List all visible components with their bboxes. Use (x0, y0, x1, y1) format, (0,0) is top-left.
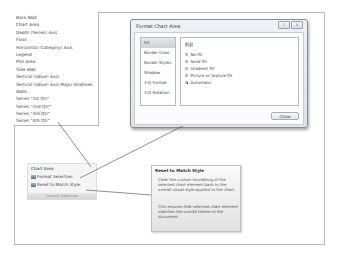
close-button[interactable]: Close (271, 112, 299, 120)
help-button[interactable]: ? (278, 21, 290, 29)
nav-item-border-color[interactable]: Border Color (141, 48, 175, 58)
tooltip-paragraph-1: Clear the custom formatting of the selec… (158, 177, 238, 192)
automatic-fill-option[interactable]: Automatic (185, 80, 211, 85)
list-item[interactable]: Series "1st Qtr" (16, 95, 98, 102)
radio-selected-icon[interactable] (185, 81, 188, 84)
tooltip-paragraph-2: This ensures that selected chart element… (158, 204, 238, 219)
selection-dropdown[interactable]: Chart Area (31, 166, 53, 171)
list-item[interactable]: Series "4th Qtr" (16, 117, 98, 124)
list-item[interactable]: Back Wall (16, 14, 98, 21)
format-selection-button[interactable]: Format Selection (31, 174, 72, 179)
format-chart-area-dialog: Format Chart Area ? X Fill Border Color … (130, 19, 308, 128)
no-fill-option[interactable]: No fill (185, 52, 202, 57)
list-item[interactable]: Plot Area (16, 58, 98, 65)
list-item[interactable]: Legend (16, 51, 98, 58)
list-item[interactable]: Vertical (Value) Axis (16, 73, 98, 80)
nav-item-border-styles[interactable]: Border Styles (141, 58, 175, 68)
dialog-body: Fill Border Color Border Styles Shadow 3… (134, 32, 304, 125)
radio-icon[interactable] (185, 60, 188, 63)
list-item[interactable]: Floor (16, 36, 98, 43)
dialog-title: Format Chart Area (136, 24, 180, 29)
list-item[interactable]: Series "3rd Qtr" (16, 110, 98, 117)
radio-icon[interactable] (185, 53, 188, 56)
nav-item-fill[interactable]: Fill (141, 38, 175, 48)
list-item[interactable]: Series "2nd Qtr" (16, 103, 98, 110)
pane-heading: Fill (185, 41, 193, 48)
chart-elements-list[interactable]: Back Wall Chart Area Depth (Series) Axis… (14, 12, 99, 126)
category-nav: Fill Border Color Border Styles Shadow 3… (140, 37, 176, 106)
list-item[interactable]: Chart Area (16, 21, 98, 28)
list-item[interactable]: Walls (16, 88, 98, 95)
nav-item-shadow[interactable]: Shadow (141, 68, 175, 78)
group-label: Current Selection (28, 193, 96, 199)
list-item[interactable]: Side Wall (16, 66, 98, 73)
reset-to-match-style-button[interactable]: Reset to Match Style (31, 182, 80, 187)
picture-texture-fill-option[interactable]: Picture or texture fill (185, 73, 232, 78)
format-selection-icon (31, 175, 36, 179)
solid-fill-option[interactable]: Solid fill (185, 59, 207, 64)
list-item[interactable]: Vertical (Value) Axis Major Gridlines (16, 81, 98, 88)
close-x-button[interactable]: X (291, 21, 303, 29)
gradient-fill-option[interactable]: Gradient fill (185, 66, 214, 71)
reset-style-icon (31, 183, 36, 187)
nav-item-3d-format[interactable]: 3-D Format (141, 78, 175, 88)
tooltip-title: Reset to Match Style (155, 168, 204, 173)
list-item[interactable]: Horizontal (Category) Axis (16, 44, 98, 51)
radio-icon[interactable] (185, 74, 188, 77)
reset-to-match-style-tooltip: Reset to Match Style Clear the custom fo… (151, 165, 241, 232)
current-selection-panel: Chart Area Format Selection Reset to Mat… (27, 163, 97, 200)
radio-icon[interactable] (185, 67, 188, 70)
nav-item-3d-rotation[interactable]: 3-D Rotation (141, 88, 175, 98)
list-item[interactable]: Depth (Series) Axis (16, 29, 98, 36)
fill-pane: Fill No fill Solid fill Gradient fill Pi… (180, 37, 299, 106)
